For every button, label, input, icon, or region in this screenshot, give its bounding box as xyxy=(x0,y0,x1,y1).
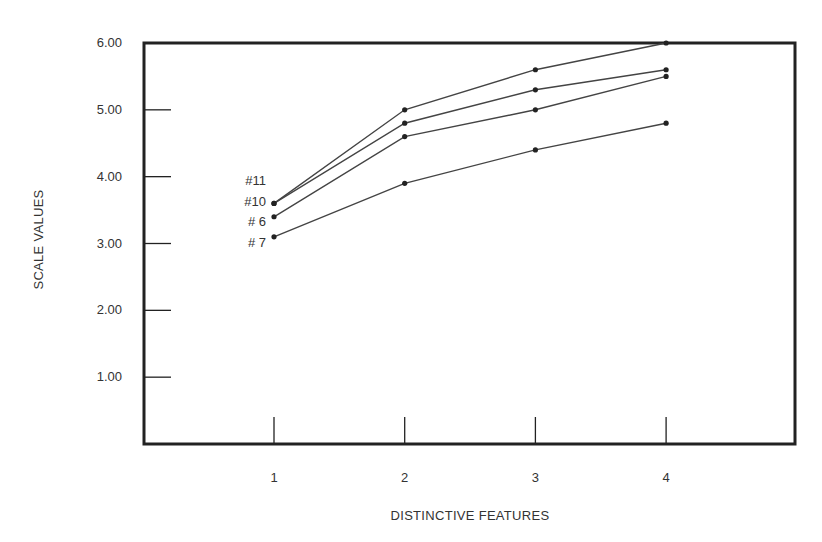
y-tick-label: 6.00 xyxy=(62,35,122,50)
y-tick-label: 5.00 xyxy=(62,102,122,117)
y-tick-label: 1.00 xyxy=(62,369,122,384)
data-point xyxy=(664,74,669,79)
series-label: #11 xyxy=(216,173,266,188)
series-label: #10 xyxy=(216,194,266,209)
axis-ticks xyxy=(144,110,666,444)
line-chart xyxy=(0,0,822,542)
data-point xyxy=(533,87,538,92)
data-point xyxy=(402,107,407,112)
series-line xyxy=(274,76,666,216)
x-tick-label: 4 xyxy=(656,470,676,485)
x-tick-label: 2 xyxy=(395,470,415,485)
data-point xyxy=(533,147,538,152)
data-point xyxy=(533,107,538,112)
y-tick-label: 4.00 xyxy=(62,169,122,184)
data-lines xyxy=(274,43,666,237)
data-point xyxy=(271,234,276,239)
x-axis-title: DISTINCTIVE FEATURES xyxy=(0,508,822,523)
data-points xyxy=(271,40,668,239)
series-label: # 7 xyxy=(216,235,266,250)
y-tick-label: 2.00 xyxy=(62,302,122,317)
data-point xyxy=(402,181,407,186)
data-point xyxy=(402,121,407,126)
y-axis-title: SCALE VALUES xyxy=(31,170,46,310)
data-point xyxy=(664,67,669,72)
data-point xyxy=(402,134,407,139)
y-tick-label: 3.00 xyxy=(62,236,122,251)
data-point xyxy=(664,121,669,126)
data-point xyxy=(664,40,669,45)
series-label: # 6 xyxy=(216,214,266,229)
x-tick-label: 1 xyxy=(264,470,284,485)
data-point xyxy=(271,201,276,206)
x-tick-label: 3 xyxy=(525,470,545,485)
data-point xyxy=(533,67,538,72)
data-point xyxy=(271,214,276,219)
